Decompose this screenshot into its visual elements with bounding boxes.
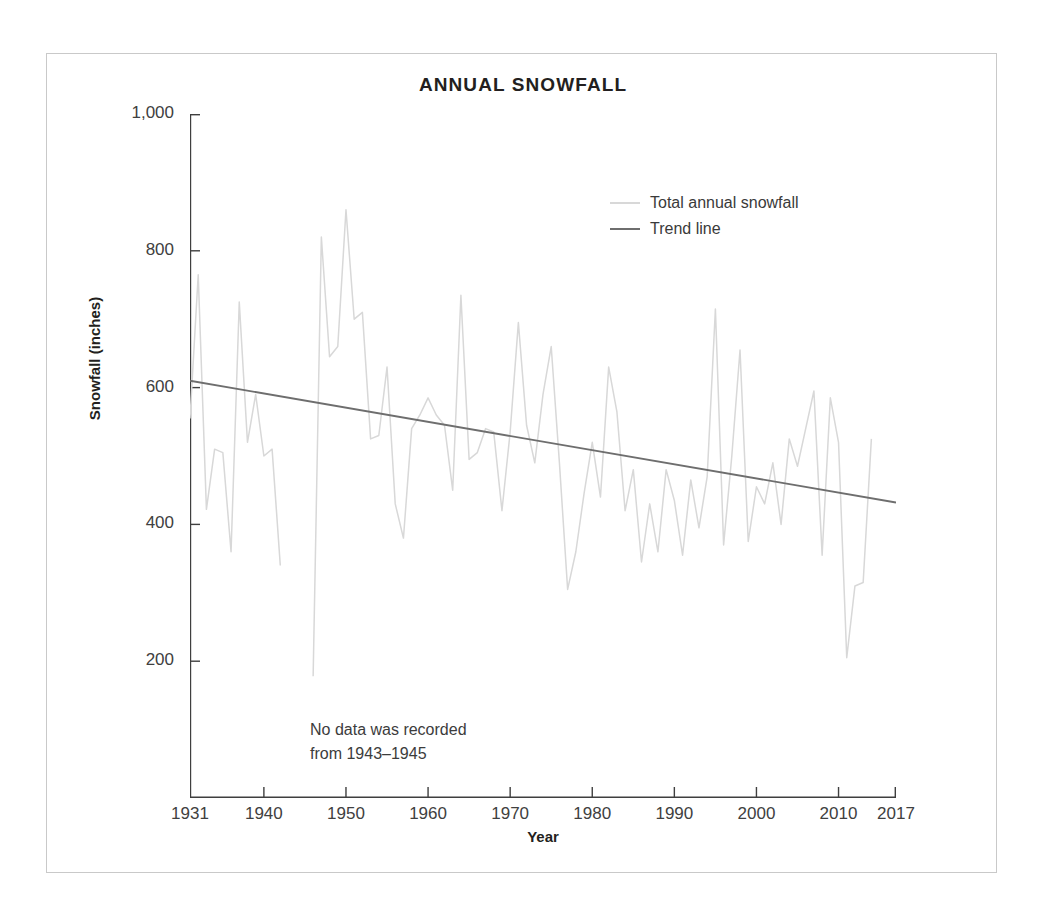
legend-label-trend-line: Trend line bbox=[650, 220, 721, 238]
x-axis-tick-label: 1990 bbox=[634, 804, 714, 824]
annotation-line-2: from 1943–1945 bbox=[310, 742, 467, 766]
legend: Total annual snowfall Trend line bbox=[610, 190, 799, 242]
chart-annotation: No data was recorded from 1943–1945 bbox=[310, 718, 467, 766]
chart-page: ANNUAL SNOWFALL Snowfall (inches) 1,0008… bbox=[0, 0, 1046, 920]
x-axis-tick-label: 1960 bbox=[388, 804, 468, 824]
legend-label-total-annual-snowfall: Total annual snowfall bbox=[650, 194, 799, 212]
legend-item-total-annual-snowfall: Total annual snowfall bbox=[610, 190, 799, 216]
x-axis-tick-label: 1950 bbox=[306, 804, 386, 824]
y-axis-tick-label: 400 bbox=[94, 513, 174, 533]
y-axis-tick-label: 200 bbox=[94, 650, 174, 670]
x-axis-tick-label: 1940 bbox=[224, 804, 304, 824]
page-title: ANNUAL SNOWFALL bbox=[0, 74, 1046, 96]
x-axis-tick-label: 1931 bbox=[150, 804, 230, 824]
series-line-total-annual-snowfall-segment-2 bbox=[313, 210, 871, 676]
x-axis-tick-label: 2017 bbox=[856, 804, 936, 824]
annotation-line-1: No data was recorded bbox=[310, 718, 467, 742]
x-axis-tick-label: 2000 bbox=[716, 804, 796, 824]
y-axis-title: Snowfall (inches) bbox=[86, 259, 103, 459]
x-axis-ticks bbox=[190, 787, 896, 797]
series-line-total-annual-snowfall bbox=[190, 275, 280, 566]
y-axis-tick-label: 800 bbox=[94, 240, 174, 260]
x-axis-tick-label: 1980 bbox=[552, 804, 632, 824]
legend-item-trend-line: Trend line bbox=[610, 216, 799, 242]
y-axis-tick-label: 1,000 bbox=[94, 103, 174, 123]
legend-swatch-icon-total-annual-snowfall bbox=[610, 202, 640, 204]
legend-swatch-icon-trend-line bbox=[610, 228, 640, 230]
y-axis-tick-label: 600 bbox=[94, 377, 174, 397]
x-axis-tick-label: 1970 bbox=[470, 804, 550, 824]
x-axis-title: Year bbox=[190, 828, 896, 845]
